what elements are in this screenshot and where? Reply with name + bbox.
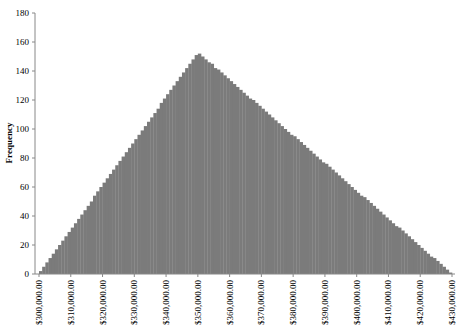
x-tick-label: $420,000.00 [415,280,425,326]
histogram-bar [233,84,236,274]
histogram-bar [436,261,439,274]
histogram-bars [39,54,452,274]
y-axis-title: Frequency [4,122,14,163]
histogram-bar [118,161,121,274]
histogram-bar [271,117,274,274]
histogram-bar [45,262,48,274]
histogram-bar [315,157,318,274]
histogram-bar [433,258,436,274]
histogram-bar [398,228,401,274]
histogram-bar [360,196,363,274]
histogram-bar [427,254,430,274]
histogram-bar [417,245,420,274]
histogram-bar [125,152,128,274]
histogram-bar [144,126,147,274]
histogram-bar [309,151,312,274]
histogram-bar [134,139,137,274]
histogram-bar [112,170,115,274]
histogram-bar [357,193,360,274]
y-tick-label: 180 [16,8,30,18]
histogram-bar [300,142,303,274]
y-tick-label: 140 [16,66,30,76]
histogram-bar [211,64,214,274]
histogram-bar [141,130,144,274]
histogram-bar [334,173,337,275]
histogram-bar [325,164,328,274]
histogram-bar [220,72,223,274]
histogram-chart: Frequency 020406080100120140160180 $300,… [0,0,468,331]
histogram-bar [236,87,239,274]
x-axis-ticks: $300,000.00$310,000.00$320,000.00$330,00… [34,274,457,325]
histogram-bar [296,139,299,274]
y-tick-label: 0 [25,269,30,279]
histogram-bar [182,72,185,274]
histogram-bar [80,215,83,274]
histogram-bar [252,100,255,274]
y-tick-label: 60 [20,182,30,192]
histogram-bar [42,267,45,274]
histogram-bar [71,228,74,274]
histogram-bar [223,75,226,274]
histogram-bar [303,145,306,274]
histogram-bar [96,191,99,274]
histogram-bar [147,122,150,274]
histogram-bar [77,219,80,274]
x-tick-label: $340,000.00 [161,280,171,326]
histogram-bar [344,181,347,274]
histogram-bar [106,178,109,274]
histogram-bar [169,90,172,274]
histogram-bar [239,90,242,274]
histogram-bar [388,220,391,274]
histogram-bar [226,78,229,274]
histogram-bar [290,135,293,274]
histogram-bar [430,257,433,274]
histogram-bar [401,231,404,275]
histogram-bar [201,57,204,275]
histogram-bar [160,103,163,274]
histogram-bar [255,103,258,274]
histogram-bar [115,165,118,274]
y-tick-label: 40 [20,211,30,221]
histogram-bar [103,183,106,274]
x-tick-label: $400,000.00 [352,280,362,326]
histogram-bar [131,144,134,275]
histogram-bar [217,70,220,274]
histogram-bar [408,236,411,274]
x-tick-label: $360,000.00 [225,280,235,326]
histogram-bar [322,162,325,274]
histogram-bar [274,120,277,274]
histogram-bar [128,148,131,274]
histogram-bar [338,175,341,274]
histogram-bar [265,112,268,274]
histogram-bar [242,93,245,274]
histogram-bar [150,117,153,274]
histogram-bar [395,226,398,274]
histogram-bar [347,184,350,274]
histogram-bar [87,206,90,274]
histogram-bar [442,267,445,274]
histogram-bar [246,96,249,274]
y-tick-label: 160 [16,37,30,47]
histogram-bar [163,99,166,274]
histogram-bar [385,217,388,274]
histogram-bar [185,68,188,274]
histogram-bar [312,154,315,274]
histogram-bar [58,245,61,274]
histogram-bar [55,249,58,274]
y-tick-label: 120 [16,95,30,105]
histogram-bar [198,54,201,274]
y-tick-label: 80 [20,153,30,163]
histogram-bar [373,206,376,274]
histogram-bar [446,270,449,274]
histogram-bar [277,123,280,274]
y-tick-label: 100 [16,124,30,134]
histogram-bar [157,109,160,274]
histogram-bar [293,136,296,274]
x-tick-label: $300,000.00 [34,280,44,326]
histogram-bar [179,77,182,274]
histogram-bar [306,148,309,274]
y-tick-label: 20 [20,240,30,250]
histogram-bar [261,109,264,274]
histogram-bar [319,159,322,274]
histogram-bar [93,196,96,274]
